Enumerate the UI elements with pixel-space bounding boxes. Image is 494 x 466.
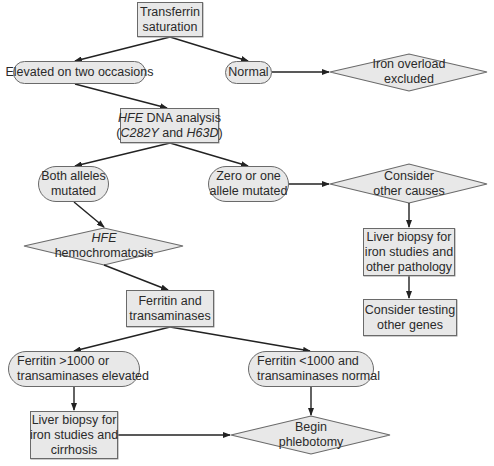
node-text: Iron overload (373, 57, 446, 72)
node-consider-testing-other-genes: Consider testing other genes (363, 299, 457, 336)
node-text: saturation (140, 20, 200, 35)
node-zero-or-one-allele: Zero or one allele mutated (208, 166, 289, 202)
node-text: excluded (373, 72, 446, 87)
edge-ferritin-low (170, 327, 310, 351)
edge-both-hemo (74, 202, 104, 227)
edge-transferrin-normal (170, 37, 248, 61)
edge-ferritin-high (74, 327, 170, 351)
node-normal: Normal (225, 61, 272, 84)
node-text: transaminases normal (257, 369, 380, 384)
node-text: Liver biopsy for (30, 413, 118, 428)
node-text: other genes (365, 318, 455, 333)
node-transferrin-saturation: Transferrin saturation (137, 2, 203, 37)
node-text: Transferrin (140, 5, 200, 20)
mutation-name: H63D (187, 126, 219, 140)
node-elevated-two-occasions: Elevated on two occasions (13, 61, 146, 84)
gene-name: HFE (55, 231, 154, 246)
node-text: Ferritin >1000 or (17, 354, 149, 369)
node-both-alleles-mutated: Both alleles mutated (38, 166, 109, 202)
edge-hemo-ferritin (104, 265, 168, 290)
node-iron-overload-excluded: Iron overload excluded (350, 56, 468, 88)
node-text: Consider testing (365, 303, 455, 318)
node-text: iron studies and (30, 428, 118, 443)
node-text: iron studies and (365, 245, 453, 260)
node-text: Consider (373, 169, 445, 184)
node-text: other causes (373, 184, 445, 199)
node-text: and (159, 126, 187, 140)
edge-hfe-zero (170, 143, 248, 166)
node-text: allele mutated (210, 184, 288, 199)
node-hfe-dna-analysis: HFE DNA analysis (C282Y and H63D) (120, 108, 219, 143)
node-text: cirrhosis (30, 443, 118, 458)
node-text: Ferritin <1000 and (257, 354, 380, 369)
node-hfe-hemochromatosis: HFE hemochromatosis (44, 230, 164, 262)
edge-hfe-both (75, 143, 170, 166)
edge-elevated-hfe (75, 84, 167, 108)
node-text: Begin (279, 420, 344, 435)
node-text: Liver biopsy for (365, 230, 453, 245)
node-text: Both alleles (41, 169, 106, 184)
node-text: Normal (228, 65, 268, 80)
node-text: Zero or one (210, 169, 288, 184)
node-text: transaminases elevated (17, 369, 149, 384)
node-consider-other-causes: Consider other causes (350, 168, 468, 200)
node-text: hemochromatosis (55, 246, 154, 261)
gene-name: HFE (118, 111, 143, 125)
node-text: ) (219, 126, 223, 140)
node-text: other pathology (365, 260, 453, 275)
mutation-name: C282Y (121, 126, 159, 140)
flowchart: Transferrin saturation Elevated on two o… (0, 0, 494, 466)
node-liver-biopsy-cirrhosis: Liver biopsy for iron studies and cirrho… (30, 411, 118, 459)
node-text: Elevated on two occasions (6, 65, 154, 80)
node-ferritin-and-transaminases: Ferritin and transaminases (126, 290, 214, 327)
node-text: mutated (41, 184, 106, 199)
node-text: phlebotomy (279, 435, 344, 450)
node-text: Ferritin and (129, 294, 210, 309)
node-text: DNA analysis (143, 111, 221, 125)
node-text: transaminases (129, 309, 210, 324)
node-liver-biopsy-other-pathology: Liver biopsy for iron studies and other … (363, 228, 455, 276)
node-ferritin-high: Ferritin >1000 or transaminases elevated (8, 351, 140, 387)
edge-transferrin-elevated (75, 37, 170, 61)
node-ferritin-low: Ferritin <1000 and transaminases normal (248, 351, 374, 387)
node-begin-phlebotomy: Begin phlebotomy (251, 419, 371, 451)
